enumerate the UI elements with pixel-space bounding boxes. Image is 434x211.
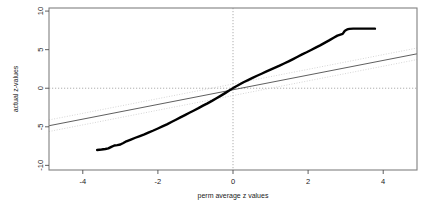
x-tick-label: 4 <box>381 177 385 186</box>
y-tick-label: 0 <box>37 86 46 90</box>
y-axis-title: actual z-values <box>12 65 19 112</box>
figure-background <box>0 0 434 211</box>
y-tick-label: -10 <box>37 160 46 171</box>
x-tick-label: 2 <box>306 177 310 186</box>
x-tick-label: 0 <box>231 177 235 186</box>
qq-plot-figure: -4-2024 1050-5-10 perm average z values … <box>0 0 434 211</box>
y-tick-label: -5 <box>37 123 46 130</box>
x-tick-label: -4 <box>79 177 86 186</box>
x-axis-title: perm average z values <box>198 192 269 200</box>
y-tick-label: 5 <box>37 48 46 52</box>
plot-canvas: -4-2024 1050-5-10 perm average z values … <box>0 0 434 211</box>
x-tick-label: -2 <box>155 177 162 186</box>
y-tick-label: 10 <box>37 7 46 15</box>
